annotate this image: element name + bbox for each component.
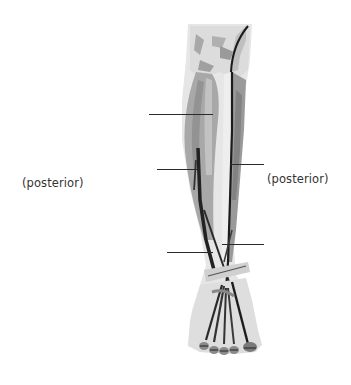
leg-foot-illustration xyxy=(0,0,351,385)
anatomy-diagram: (posterior) (posterior) xyxy=(0,0,351,385)
label-posterior-left: (posterior) xyxy=(22,176,84,190)
leader-line-1 xyxy=(149,114,213,115)
label-posterior-right: (posterior) xyxy=(267,172,329,186)
toe-5 xyxy=(243,342,257,352)
leader-line-5 xyxy=(167,252,213,253)
leader-line-2 xyxy=(157,169,198,170)
leader-line-3 xyxy=(230,164,264,165)
leader-line-4 xyxy=(222,244,264,245)
